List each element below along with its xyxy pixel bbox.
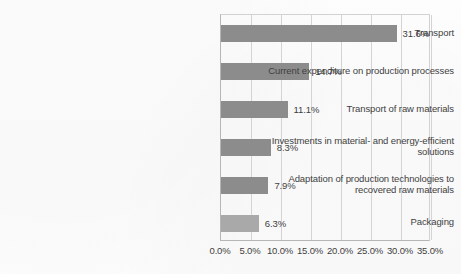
- x-tick-label: 15.0%: [297, 245, 323, 256]
- category-label-line: Transport of raw materials: [243, 103, 454, 115]
- x-tick-label: 20.0%: [327, 245, 353, 256]
- plot-area: 31.6%14.7%11.1%8.3%7.9%6.3%: [220, 14, 430, 241]
- category-label-line: Packaging: [243, 216, 454, 228]
- bar-chart: 31.6%14.7%11.1%8.3%7.9%6.3% TransportCur…: [0, 0, 461, 274]
- category-label: Current expenditure on production proces…: [243, 65, 461, 77]
- x-tick-label: 10.0%: [267, 245, 293, 256]
- category-label-line: recovered raw materials: [243, 184, 454, 196]
- category-label-line: Adaptation of production technologies to: [243, 173, 454, 185]
- x-tick-label: 0.0%: [210, 245, 231, 256]
- x-tick-label: 30.0%: [387, 245, 413, 256]
- gridline: [431, 15, 432, 240]
- x-tick-label: 25.0%: [357, 245, 383, 256]
- category-label: Transport: [243, 27, 461, 39]
- category-label: Adaptation of production technologies to…: [243, 173, 461, 196]
- category-label: Packaging: [243, 216, 461, 228]
- x-tick-label: 5.0%: [240, 245, 261, 256]
- category-label: Transport of raw materials: [243, 103, 461, 115]
- category-label-line: Investments in material- and energy-effi…: [243, 135, 454, 147]
- x-axis-tick-labels: 0.0%5.0%10.0%15.0%20.0%25.0%30.0%35.0%: [220, 245, 430, 259]
- category-label: Investments in material- and energy-effi…: [243, 135, 461, 158]
- category-label-line: Transport: [243, 27, 454, 39]
- category-label-line: solutions: [243, 146, 454, 158]
- category-label-line: Current expenditure on production proces…: [243, 65, 454, 77]
- x-tick-label: 35.0%: [417, 245, 443, 256]
